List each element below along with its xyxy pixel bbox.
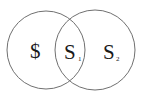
intersection-subscript: 1 [78,55,82,63]
left-region-label: $ [30,39,41,63]
right-region-label: S [103,40,115,64]
venn-diagram: $ S 1 S 2 [0,0,142,94]
right-region-subscript: 2 [116,55,120,63]
intersection-label: S [64,40,76,64]
